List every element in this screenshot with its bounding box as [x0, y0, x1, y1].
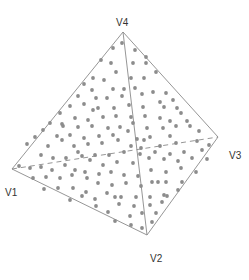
sample-point	[122, 173, 126, 177]
sample-point	[97, 134, 101, 138]
sample-point	[58, 111, 62, 115]
sample-point	[179, 111, 183, 115]
sample-point	[93, 197, 97, 201]
sample-point	[132, 204, 136, 208]
sample-point	[86, 118, 90, 122]
sample-point	[136, 174, 140, 178]
sample-point	[116, 138, 120, 142]
sample-point	[68, 104, 72, 108]
sample-point	[168, 152, 172, 156]
sample-point	[101, 163, 105, 167]
sample-point	[73, 168, 77, 172]
sample-point	[131, 121, 135, 125]
sample-point	[131, 161, 135, 165]
sample-point	[133, 48, 137, 52]
sample-point	[168, 119, 172, 123]
sample-point	[51, 156, 55, 160]
sample-point	[42, 187, 46, 191]
sample-point	[161, 126, 165, 130]
sample-point	[17, 164, 21, 168]
sample-point	[46, 144, 50, 148]
sample-point	[106, 210, 110, 214]
sample-point	[148, 135, 152, 139]
sample-point	[105, 191, 109, 195]
sample-point	[122, 150, 126, 154]
sample-point	[195, 139, 199, 143]
sample-point	[153, 150, 157, 154]
sample-point	[96, 106, 100, 110]
sample-point	[162, 157, 166, 161]
sample-point	[143, 114, 147, 118]
sample-point	[111, 46, 115, 50]
sample-point	[88, 158, 92, 162]
sample-point	[39, 165, 43, 169]
sample-point	[106, 126, 110, 130]
sample-point	[144, 61, 148, 65]
sample-point	[162, 105, 166, 109]
sample-point	[93, 153, 97, 157]
sample-point	[174, 141, 178, 145]
sample-point	[76, 150, 80, 154]
sample-point	[50, 168, 54, 172]
sample-point	[96, 181, 100, 185]
sample-point	[99, 58, 103, 62]
sample-point	[139, 184, 143, 188]
sample-point	[31, 176, 35, 180]
sample-point	[94, 204, 98, 208]
sample-point	[73, 116, 77, 120]
sample-point	[122, 87, 126, 91]
sample-point	[182, 150, 186, 154]
sample-point	[120, 94, 124, 98]
sample-point	[171, 98, 175, 102]
sample-point	[139, 146, 143, 150]
sample-point	[109, 61, 113, 65]
sample-point	[33, 135, 37, 139]
sample-point	[129, 76, 133, 80]
sample-point	[82, 136, 86, 140]
sample-point	[179, 166, 183, 170]
sample-point	[164, 91, 168, 95]
sample-point	[126, 129, 130, 133]
sample-point	[109, 170, 113, 174]
sample-point	[82, 82, 86, 86]
sample-point	[129, 115, 133, 119]
sample-point	[168, 134, 172, 138]
sample-point	[164, 170, 168, 174]
sample-point	[83, 170, 87, 174]
sample-point	[56, 186, 60, 190]
sample-point	[142, 76, 146, 80]
sample-points	[17, 41, 211, 230]
sample-point	[85, 176, 89, 180]
sample-point	[76, 125, 80, 129]
sample-point	[48, 121, 52, 125]
sample-point	[188, 124, 192, 128]
sample-point	[119, 195, 123, 199]
sample-point	[138, 152, 142, 156]
tetrahedron-edges	[12, 32, 218, 235]
sample-point	[165, 194, 169, 198]
sample-point	[58, 176, 62, 180]
sample-point	[41, 128, 45, 132]
sample-point	[147, 156, 151, 160]
sample-point	[129, 223, 133, 227]
sample-point	[134, 195, 138, 199]
sample-point	[141, 105, 145, 109]
sample-point	[91, 108, 95, 112]
sample-point	[64, 156, 68, 160]
sample-point	[207, 143, 211, 147]
sample-point	[80, 194, 84, 198]
sample-point	[140, 211, 144, 215]
sample-point	[60, 122, 64, 126]
sample-point	[72, 144, 76, 148]
sample-point	[84, 190, 88, 194]
sample-point	[190, 156, 194, 160]
vertex-label-v3: V3	[229, 150, 242, 161]
sample-point	[114, 114, 118, 118]
sample-point	[25, 142, 29, 146]
sample-point	[115, 160, 119, 164]
sample-point	[148, 195, 152, 199]
sample-point	[101, 115, 105, 119]
sample-point	[39, 153, 43, 157]
sample-point	[176, 159, 180, 163]
sample-point	[128, 214, 132, 218]
